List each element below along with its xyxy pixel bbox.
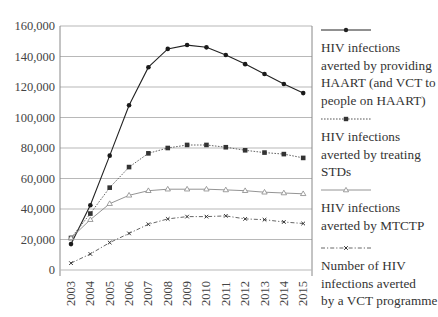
x-tick-label: 2009 [180, 281, 194, 306]
y-tick-label: 20,000 [21, 233, 55, 247]
legend-label-stds: HIV infections averted by treating STDs [321, 128, 438, 181]
series-line [71, 189, 303, 238]
circle-marker-icon [107, 153, 112, 158]
x-tick-label: 2004 [83, 280, 97, 306]
circle-marker-icon [262, 72, 267, 77]
circle-marker-icon [146, 65, 151, 70]
y-tick-label: 40,000 [21, 202, 55, 216]
legend-swatch-dotted-square-icon [321, 114, 371, 124]
x-marker-icon [108, 241, 112, 245]
axes [60, 26, 312, 276]
gridlines [60, 26, 312, 240]
circle-marker-icon [243, 62, 248, 67]
square-marker-icon [301, 156, 306, 161]
square-marker-icon [127, 165, 132, 170]
square-marker-icon [165, 146, 170, 151]
square-marker-icon [243, 148, 248, 153]
legend-item-mtctp: HIV infections averted by MTCTP [321, 185, 438, 234]
circle-marker-icon [204, 45, 209, 50]
x-tick-label: 2007 [141, 281, 155, 306]
square-marker-icon [107, 185, 112, 190]
square-marker-icon [146, 151, 151, 156]
triangle-marker-icon [301, 191, 306, 196]
circle-marker-icon [69, 242, 74, 247]
y-tick-label: 0 [49, 263, 55, 277]
triangle-marker-icon [184, 186, 189, 191]
y-axis-tick-labels: 020,00040,00060,00080,000100,000120,0001… [14, 19, 55, 277]
y-tick-label: 160,000 [14, 19, 55, 33]
square-marker-icon [185, 143, 190, 148]
legend-swatch-solid-circle-icon [321, 25, 371, 35]
x-tick-label: 2008 [161, 281, 175, 306]
x-tick-label: 2015 [296, 281, 310, 306]
x-marker-icon [69, 261, 73, 265]
x-marker-icon [185, 215, 189, 219]
legend-swatch-dashdot-x-icon [321, 243, 371, 253]
x-tick-label: 2005 [103, 281, 117, 306]
x-tick-label: 2010 [199, 281, 213, 306]
x-marker-icon [89, 252, 93, 256]
series-line [71, 145, 303, 238]
legend-label-vct: Number of HIV infections averted by a VC… [321, 257, 438, 310]
legend-label-mtctp: HIV infections averted by MTCTP [321, 199, 438, 234]
circle-marker-icon [224, 53, 229, 58]
series-stds [69, 143, 306, 241]
circle-marker-icon [301, 91, 306, 96]
y-tick-label: 140,000 [14, 50, 55, 64]
square-marker-icon [88, 211, 93, 216]
data-series [68, 43, 306, 265]
square-marker-icon [224, 145, 229, 150]
x-marker-icon [127, 232, 131, 236]
x-tick-label: 2012 [238, 281, 252, 306]
square-marker-icon [262, 150, 267, 155]
circle-marker-icon [88, 203, 93, 208]
circle-marker-icon [165, 47, 170, 52]
circle-marker-icon [282, 82, 287, 87]
circle-marker-icon [185, 43, 190, 48]
y-tick-label: 120,000 [14, 80, 55, 94]
x-tick-label: 2013 [258, 281, 272, 306]
x-tick-label: 2006 [122, 281, 136, 306]
triangle-marker-icon [165, 186, 170, 191]
circle-marker-icon [127, 103, 132, 108]
legend-item-haart: HIV infections averted by providing HAAR… [321, 25, 438, 109]
square-marker-icon [282, 152, 287, 157]
triangle-marker-icon [204, 186, 209, 191]
legend-item-vct: Number of HIV infections averted by a VC… [321, 243, 438, 310]
y-tick-label: 100,000 [14, 111, 55, 125]
y-tick-label: 80,000 [21, 141, 55, 155]
y-tick-label: 60,000 [21, 172, 55, 186]
legend-label-haart: HIV infections averted by providing HAAR… [321, 39, 438, 109]
square-marker-icon [204, 143, 209, 148]
legend-item-stds: HIV infections averted by treating STDs [321, 114, 438, 181]
x-tick-label: 2014 [277, 280, 291, 306]
x-tick-label: 2003 [64, 281, 78, 306]
x-axis-tick-labels: 2003200420052006200720082009201020112012… [64, 280, 310, 306]
legend-swatch-triangle-icon [321, 185, 371, 195]
x-tick-label: 2011 [219, 281, 233, 306]
x-marker-icon [147, 222, 151, 226]
series-mtctp [68, 186, 306, 239]
